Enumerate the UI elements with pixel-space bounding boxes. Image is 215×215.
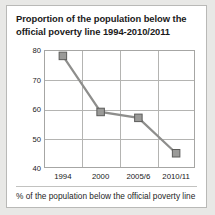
chart-figure: Proportion of the population below the o… (6, 5, 207, 208)
data-point-marker (59, 52, 67, 60)
x-axis-tick-label: 1994 (54, 172, 71, 181)
data-point-marker (172, 150, 180, 158)
series-polyline (63, 56, 176, 153)
data-point-marker (135, 114, 143, 122)
y-axis-tick-label: 50 (9, 134, 41, 143)
x-axis-tick-labels: 199420002005/62010/11 (44, 172, 195, 186)
y-axis-tick-labels: 4050607080 (7, 50, 41, 168)
chart-title: Proportion of the population below the o… (16, 13, 201, 38)
y-axis-tick-label: 80 (9, 46, 41, 55)
data-series-line (44, 50, 195, 168)
y-axis-tick-label: 60 (9, 105, 41, 114)
plot-wrapper: 4050607080 199420002005/62010/11 (7, 49, 206, 171)
y-axis-tick-label: 40 (9, 164, 41, 173)
x-axis-tick-label: 2005/6 (126, 172, 150, 181)
caption-divider (16, 186, 197, 187)
data-point-marker (97, 108, 105, 116)
y-axis-tick-label: 70 (9, 75, 41, 84)
x-axis-tick-label: 2000 (92, 172, 109, 181)
chart-caption: % of the population below the official p… (16, 191, 201, 201)
x-axis-tick-label: 2010/11 (162, 172, 190, 181)
